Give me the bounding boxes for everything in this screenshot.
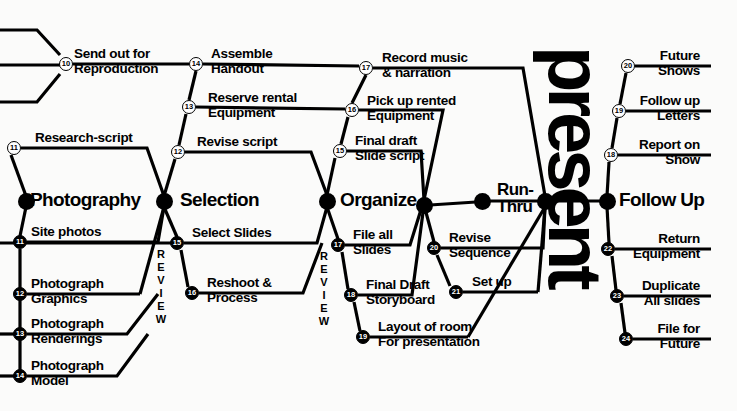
activity-node-number: 12: [16, 290, 24, 298]
activity-label-19: Layout of roomFor presentation: [378, 320, 480, 349]
activity-label-12: Revise script: [197, 135, 277, 149]
pert-diagram-canvas: PhotographySelectionOrganizeRun-ThruFoll…: [0, 0, 737, 411]
activity-label-20: ReviseSequence: [449, 231, 510, 260]
activity-label-19: Follow upLetters: [640, 94, 700, 123]
activity-label-16: Reshoot &Process: [207, 276, 272, 305]
milestone-node-run-thru[interactable]: [474, 193, 491, 210]
activity-node-number: 11: [10, 144, 18, 152]
activity-label-17: Record music& narration: [382, 51, 468, 80]
milestone-label-photography: Photography: [30, 190, 141, 209]
activity-node-number: 14: [192, 60, 200, 68]
activity-node-number: 15: [336, 147, 344, 155]
activity-node-number: 20: [430, 244, 438, 252]
activity-node-number: 17: [334, 241, 342, 249]
milestone-label-follow-up: Follow Up: [619, 190, 704, 209]
activity-node-number: 13: [16, 330, 24, 338]
activity-node-number: 24: [622, 335, 630, 343]
activity-label-21: Set up: [472, 275, 511, 289]
activity-label-11: Research-script: [35, 131, 133, 145]
activity-label-13: Reserve rentalEquipment: [208, 91, 297, 120]
activity-label-20: FutureShows: [658, 49, 700, 78]
activity-node-number: 17: [362, 64, 370, 72]
activity-label-16: Pick up rentedEquipment: [367, 94, 456, 123]
activity-node-number: 16: [188, 289, 196, 297]
activity-label-15: Final draftSlide script: [355, 134, 424, 163]
milestone-label-run-thru: Run-Thru: [497, 181, 533, 216]
review-label-organize: REVIEW: [319, 250, 328, 328]
activity-label-24: File forFuture: [657, 322, 700, 351]
activity-label-11: Site photos: [31, 225, 101, 239]
present-title: present: [543, 46, 607, 286]
activity-node-number: 20: [624, 62, 632, 70]
activity-node-number: 21: [452, 288, 460, 296]
activity-label-18: Final DraftStoryboard: [366, 278, 435, 307]
activity-label-18: Report onShow: [639, 138, 700, 167]
activity-node-number: 16: [348, 106, 356, 114]
milestone-node-selection[interactable]: [156, 193, 173, 210]
milestone-label-organize: Organize: [340, 190, 417, 209]
review-label-selection: REVIEW: [156, 248, 165, 326]
activity-node-number: 12: [174, 148, 182, 156]
activity-label-15: Select Slides: [192, 226, 271, 240]
activity-node-number: 10: [62, 60, 70, 68]
activity-label-14: AssembleHandout: [211, 47, 272, 76]
activity-node-number: 23: [613, 292, 621, 300]
activity-label-10: Send out forReproduction: [74, 47, 158, 76]
activity-node-number: 13: [185, 103, 193, 111]
milestone-label-selection: Selection: [180, 190, 259, 209]
activity-label-13: PhotographRenderings: [31, 317, 104, 346]
activity-label-23: DuplicateAll slides: [642, 279, 700, 308]
activity-node-number: 18: [347, 291, 355, 299]
activity-label-22: ReturnEquipment: [633, 232, 700, 261]
activity-label-12: PhotographGraphics: [31, 277, 104, 306]
activity-node-number: 19: [359, 333, 367, 341]
milestone-node-organize[interactable]: [319, 193, 336, 210]
activity-node-number: 11: [16, 238, 24, 246]
activity-label-17: File allSlides: [353, 228, 393, 257]
activity-node-number: 14: [16, 372, 24, 380]
milestone-node-organize-end[interactable]: [416, 197, 433, 214]
activity-label-14: PhotographModel: [31, 359, 104, 388]
activity-node-number: 15: [173, 239, 181, 247]
